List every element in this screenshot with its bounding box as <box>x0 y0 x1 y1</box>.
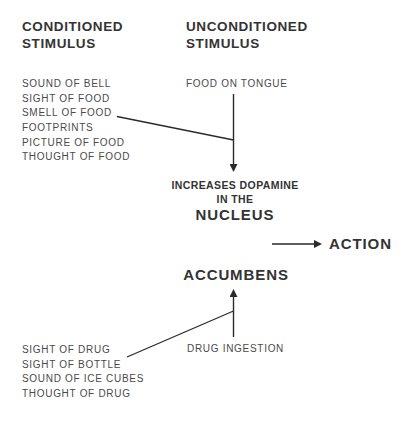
unconditioned-food-label: FOOD ON TONGUE <box>186 77 288 92</box>
drug-cue-item: THOUGHT OF DRUG <box>22 387 144 402</box>
unconditioned-stimulus-heading: UNCONDITIONED STIMULUS <box>186 18 308 52</box>
food-cue-item: FOOTPRINTS <box>22 121 130 136</box>
conditioned-heading-line2: STIMULUS <box>22 35 123 52</box>
drug-cue-list: SIGHT OF DRUG SIGHT OF BOTTLE SOUND OF I… <box>22 343 144 402</box>
accumbens-label: ACCUMBENS <box>155 266 317 284</box>
food-cue-list: SOUND OF BELL SIGHT OF FOOD SMELL OF FOO… <box>22 77 130 165</box>
food-cue-item: SOUND OF BELL <box>22 77 130 92</box>
drug-cue-item: SIGHT OF BOTTLE <box>22 358 144 373</box>
food-cue-connector <box>117 117 234 141</box>
food-cue-item: SMELL OF FOOD <box>22 106 130 121</box>
dopamine-line1: INCREASES DOPAMINE <box>155 178 315 192</box>
food-cue-item: PICTURE OF FOOD <box>22 136 130 151</box>
unconditioned-heading-line1: UNCONDITIONED <box>186 18 308 35</box>
dopamine-effect-label: INCREASES DOPAMINE IN THE NUCLEUS <box>155 178 315 224</box>
drug-cue-item: SOUND OF ICE CUBES <box>22 372 144 387</box>
unconditioned-heading-line2: STIMULUS <box>186 35 308 52</box>
conditioned-heading-line1: CONDITIONED <box>22 18 123 35</box>
food-cue-item: SIGHT OF FOOD <box>22 92 130 107</box>
drug-cue-item: SIGHT OF DRUG <box>22 343 144 358</box>
food-cue-item: THOUGHT OF FOOD <box>22 150 130 165</box>
conditioned-stimulus-heading: CONDITIONED STIMULUS <box>22 18 123 52</box>
dopamine-line3: NUCLEUS <box>155 206 315 224</box>
dopamine-line2: IN THE <box>155 192 315 206</box>
unconditioned-drug-label: DRUG INGESTION <box>187 342 284 357</box>
action-label: ACTION <box>329 235 392 253</box>
